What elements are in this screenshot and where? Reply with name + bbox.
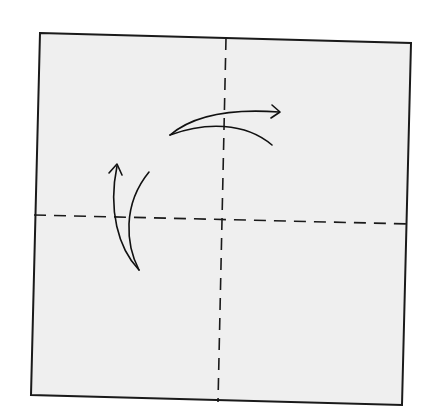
origami-diagram <box>0 0 432 419</box>
